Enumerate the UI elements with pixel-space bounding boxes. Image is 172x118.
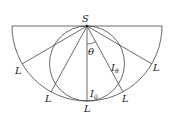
source-point bbox=[86, 25, 88, 27]
endpoint-label-left: L bbox=[14, 65, 22, 76]
angle-label: θ bbox=[88, 46, 94, 57]
ray-left bbox=[22, 26, 87, 64]
ray-right bbox=[87, 26, 152, 64]
photometry-diagram: S θ Iθ I0 L L L L L bbox=[0, 0, 172, 118]
intensity-theta-label: Iθ bbox=[110, 62, 119, 74]
endpoint-label-lower-left: L bbox=[44, 93, 52, 104]
ray-lower-left bbox=[51, 26, 87, 92]
endpoint-label-bottom: L bbox=[83, 103, 91, 114]
ray-lower-right bbox=[87, 26, 123, 92]
endpoint-label-right: L bbox=[152, 62, 160, 73]
endpoint-label-lower-right: L bbox=[121, 93, 129, 104]
theta-arc bbox=[87, 42, 96, 44]
source-label: S bbox=[82, 13, 89, 24]
intensity-zero-label: I0 bbox=[89, 88, 98, 100]
